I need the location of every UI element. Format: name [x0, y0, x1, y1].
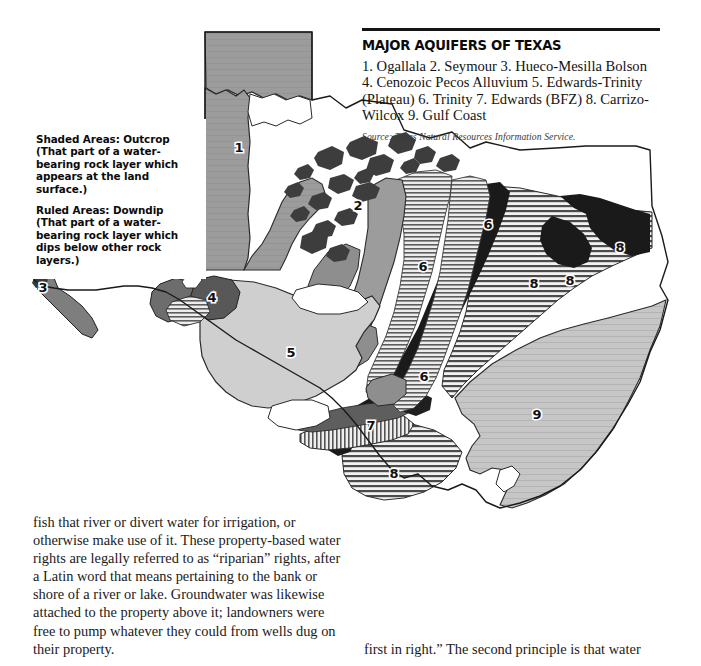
aquifer-label-7: 7 [366, 418, 375, 433]
aquifer-label-6: 6 [418, 259, 427, 274]
body-paragraph-left: fish that river or divert water for irri… [33, 513, 345, 658]
body-paragraph-right: first in right.” The second principle is… [364, 640, 694, 658]
aquifer-label-3: 3 [38, 280, 47, 295]
aquifer-legend-list: 1. Ogallala 2. Seymour 3. Hueco-Mesilla … [362, 58, 660, 124]
aquifer-label-1: 1 [234, 140, 243, 155]
aquifers-title-block: MAJOR AQUIFERS OF TEXAS 1. Ogallala 2. S… [362, 28, 660, 142]
aquifer-label-8: 8 [529, 276, 538, 291]
body-text-left-column: fish that river or divert water for irri… [33, 513, 345, 658]
aquifer-label-8: 8 [389, 466, 398, 481]
aquifer-label-2: 2 [353, 198, 362, 213]
page-title: MAJOR AQUIFERS OF TEXAS [362, 38, 660, 53]
aquifer-label-5: 5 [286, 345, 295, 360]
aquifer-label-4: 4 [207, 290, 216, 305]
aquifer-label-8: 8 [615, 240, 624, 255]
source-credit: Source: Texas Natural Resources Informat… [362, 131, 660, 142]
legend-shaded-areas: Shaded Areas: Outcrop (That part of a wa… [36, 133, 196, 195]
aquifer-label-6: 6 [483, 217, 492, 232]
aquifer-label-6: 6 [419, 369, 428, 384]
aquifer-label-9: 9 [532, 407, 541, 422]
aquifer-label-8: 8 [565, 273, 574, 288]
title-rule-line [362, 28, 660, 31]
legend-box: Shaded Areas: Outcrop (That part of a wa… [0, 119, 206, 279]
legend-ruled-areas: Ruled Areas: Downdip (That part of a wat… [36, 204, 196, 266]
body-text-right-column: first in right.” The second principle is… [364, 640, 694, 658]
